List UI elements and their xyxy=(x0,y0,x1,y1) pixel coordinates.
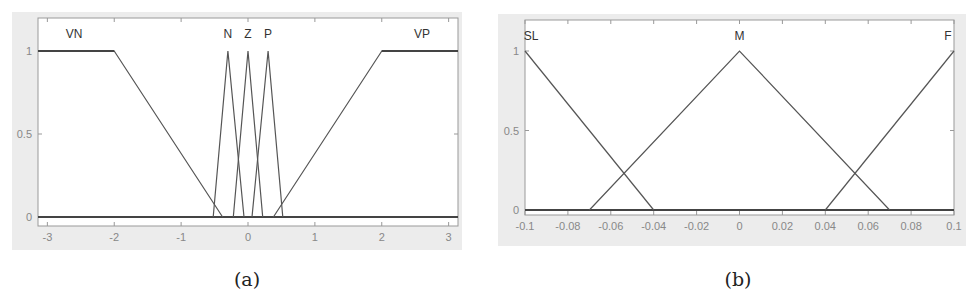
y-tick-label: 1 xyxy=(513,45,519,57)
x-tick-label: 0.02 xyxy=(772,220,793,232)
x-tick-label: 0.1 xyxy=(946,220,961,232)
x-tick-label: -0.08 xyxy=(555,220,580,232)
caption-a: (a) xyxy=(217,268,277,290)
plot-frame xyxy=(525,20,954,215)
caption-b: (b) xyxy=(708,268,768,290)
mf-label-m: M xyxy=(735,29,745,43)
x-tick-label: 0.06 xyxy=(857,220,878,232)
x-tick-label: -0.02 xyxy=(684,220,709,232)
chart-b: -0.1-0.08-0.06-0.04-0.0200.020.040.060.0… xyxy=(0,0,974,255)
x-tick-label: 0.04 xyxy=(815,220,836,232)
x-tick-label: 0.08 xyxy=(900,220,921,232)
y-tick-label: 0 xyxy=(513,204,519,216)
chart-b-plot: -0.1-0.08-0.06-0.04-0.0200.020.040.060.0… xyxy=(0,0,974,255)
x-tick-label: -0.04 xyxy=(641,220,666,232)
y-tick-label: 0.5 xyxy=(504,125,519,137)
mf-label-sl: SL xyxy=(524,29,539,43)
x-tick-label: 0 xyxy=(736,220,742,232)
mf-label-f: F xyxy=(944,29,951,43)
x-tick-label: -0.1 xyxy=(516,220,535,232)
x-tick-label: -0.06 xyxy=(598,220,623,232)
